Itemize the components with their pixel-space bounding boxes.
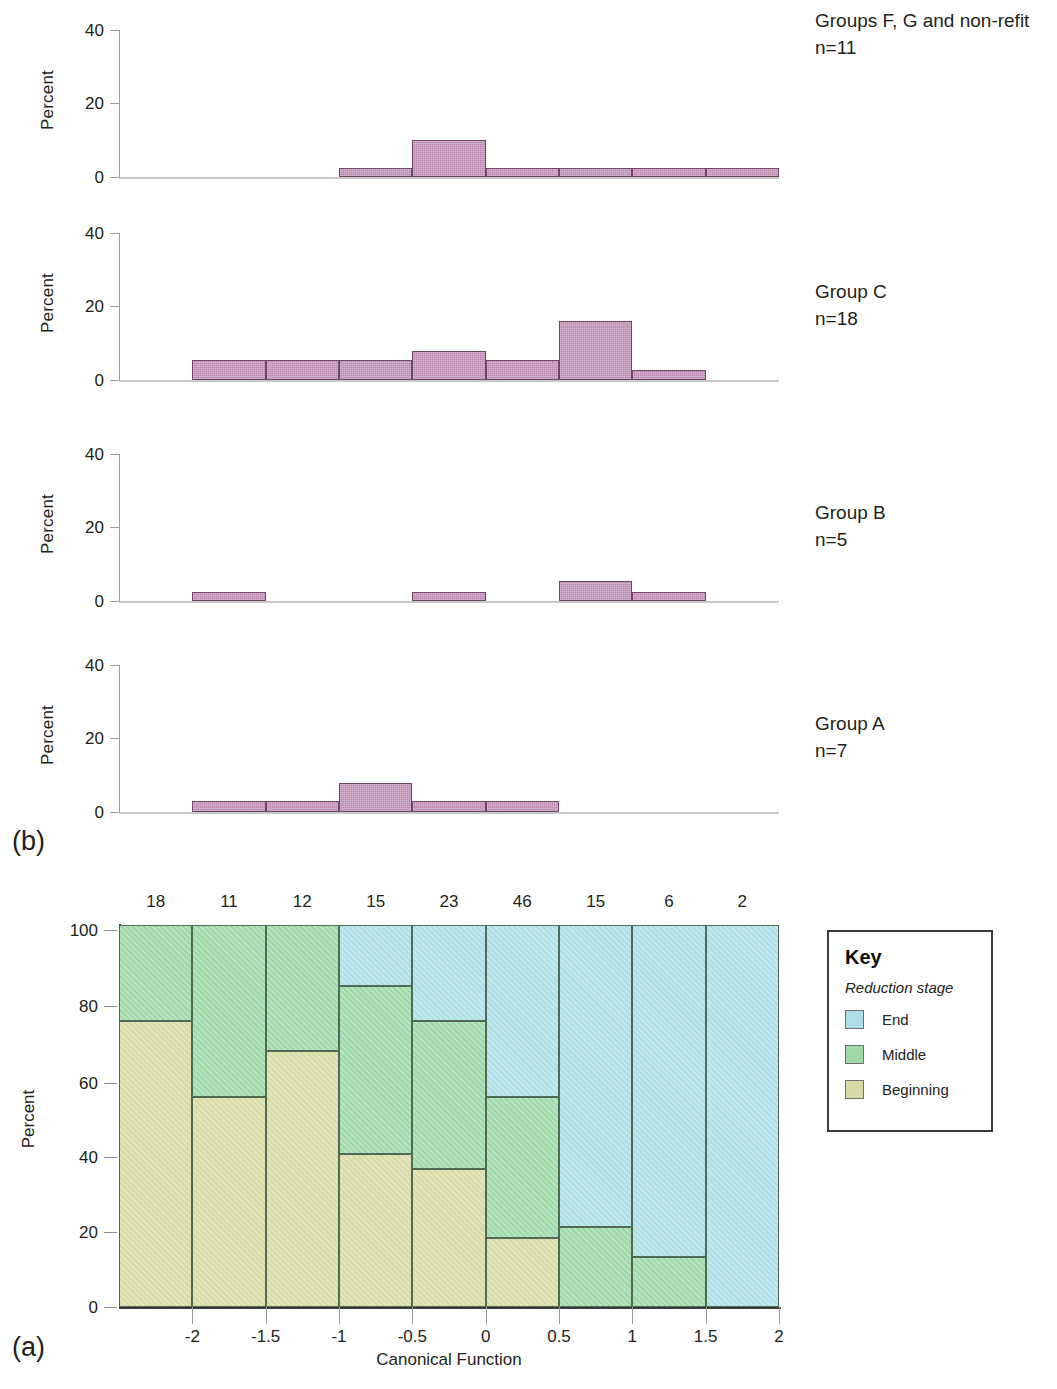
histogram-bar — [632, 370, 705, 380]
plot-area — [119, 203, 779, 382]
x-axis-title: Canonical Function — [119, 1350, 779, 1370]
histogram-bar — [412, 592, 485, 601]
x-axis-tick — [779, 1307, 780, 1324]
bin-count-labels: 1811121523461562 — [119, 892, 779, 916]
stacked-bin — [412, 925, 485, 1307]
stacked-bin — [706, 925, 779, 1307]
stack-segment-middle — [632, 1257, 705, 1307]
x-axis-tick — [486, 1307, 487, 1324]
plot-area — [119, 925, 779, 1307]
y-tick-40: 40 — [0, 224, 104, 244]
stack-segment-end — [559, 925, 632, 1227]
stack-segment-end — [339, 925, 412, 986]
x-tick-label: -1.5 — [251, 1327, 280, 1347]
y-tick-20: 20 — [0, 518, 104, 538]
bin-count-label: 12 — [266, 892, 339, 912]
plot-area — [119, 0, 779, 179]
panel-letter-a: (a) — [12, 1332, 45, 1363]
bin-count-label: 15 — [339, 892, 412, 912]
histogram-panel-group-b: Percent 40 20 0 Group B n=5 — [0, 424, 1057, 624]
bin-count-label: 15 — [559, 892, 632, 912]
stacked-bin — [559, 925, 632, 1307]
y-tick-40: 40 — [0, 21, 104, 41]
histogram-bar — [339, 783, 412, 812]
x-tick-label: 2 — [774, 1327, 783, 1347]
legend-item: Middle — [845, 1045, 977, 1064]
legend-item: End — [845, 1010, 977, 1029]
x-axis-tick — [339, 1307, 340, 1324]
y-tick-40: 40 — [0, 1148, 98, 1168]
histogram-bar — [339, 168, 412, 177]
stack-segment-beginning — [339, 1154, 412, 1307]
panel-caption: Group B n=5 — [815, 500, 886, 554]
stack-segment-middle — [486, 1097, 559, 1238]
legend-item-label: End — [882, 1011, 909, 1028]
stacked-bin — [486, 925, 559, 1307]
stack-segment-beginning — [412, 1169, 485, 1307]
x-tick-label: -2 — [185, 1327, 200, 1347]
histogram-bar — [559, 581, 632, 601]
stack-segment-end — [486, 925, 559, 1097]
legend-items: EndMiddleBeginning — [845, 1010, 977, 1099]
legend-swatch-icon — [845, 1045, 864, 1064]
histogram-bar — [412, 801, 485, 812]
bin-count-label: 2 — [706, 892, 779, 912]
stacked-bin — [119, 925, 192, 1307]
stack-segment-middle — [339, 986, 412, 1154]
histogram-bar — [412, 351, 485, 380]
stacked-bin — [266, 925, 339, 1307]
y-tick-0: 0 — [0, 168, 104, 188]
x-axis-tick — [266, 1307, 267, 1324]
y-tick-20: 20 — [0, 729, 104, 749]
histogram-bar — [632, 168, 705, 177]
figure-panel-b: Percent 40 20 0 Groups F, G and non-refi… — [0, 0, 1057, 880]
y-tick-20: 20 — [0, 1223, 98, 1243]
histogram-panel-group-c: Percent 40 20 0 Group C n=18 — [0, 203, 1057, 403]
x-axis-ticks: -2-1.5-1-0.500.511.52 — [119, 1307, 781, 1327]
stack-segment-end — [706, 925, 779, 1307]
y-tick-20: 20 — [0, 94, 104, 114]
stack-segment-beginning — [266, 1051, 339, 1307]
stacked-bin — [192, 925, 265, 1307]
y-tick-0: 0 — [0, 592, 104, 612]
stacked-bin — [632, 925, 705, 1307]
histogram-bar — [486, 168, 559, 177]
x-tick-label: 1.5 — [694, 1327, 718, 1347]
y-tick-60: 60 — [0, 1074, 98, 1094]
stack-segment-beginning — [486, 1238, 559, 1307]
x-axis-tick — [632, 1307, 633, 1324]
stack-segment-end — [632, 925, 705, 1257]
histogram-bar — [266, 801, 339, 812]
histogram-bar — [486, 801, 559, 812]
bin-count-label: 11 — [192, 892, 265, 912]
legend-key-box: Key Reduction stage EndMiddleBeginning — [827, 930, 993, 1132]
legend-title: Key — [845, 946, 977, 969]
histogram-bar — [192, 360, 265, 380]
histogram-bar — [559, 321, 632, 380]
histogram-bar — [559, 168, 632, 177]
stack-segment-middle — [266, 925, 339, 1051]
histogram-bar — [632, 592, 705, 601]
stacked-bin — [339, 925, 412, 1307]
histogram-bar — [192, 801, 265, 812]
y-axis-title: Percent — [18, 930, 40, 1307]
x-tick-label: -1 — [331, 1327, 346, 1347]
x-axis-tick — [706, 1307, 707, 1324]
legend-item-label: Middle — [882, 1046, 926, 1063]
bin-count-label: 23 — [412, 892, 485, 912]
histogram-bar — [412, 140, 485, 177]
y-tick-20: 20 — [0, 297, 104, 317]
y-tick-0: 0 — [0, 803, 104, 823]
bin-count-label: 6 — [632, 892, 705, 912]
legend-swatch-icon — [845, 1080, 864, 1099]
y-tick-0: 0 — [0, 371, 104, 391]
x-tick-label: 0.5 — [547, 1327, 571, 1347]
x-tick-label: 1 — [628, 1327, 637, 1347]
legend-item: Beginning — [845, 1080, 977, 1099]
stack-segment-middle — [192, 925, 265, 1097]
x-axis-tick — [412, 1307, 413, 1324]
x-axis-tick — [192, 1307, 193, 1324]
histogram-bar — [706, 168, 779, 177]
stack-segment-end — [412, 925, 485, 1021]
stack-segment-middle — [119, 925, 192, 1021]
